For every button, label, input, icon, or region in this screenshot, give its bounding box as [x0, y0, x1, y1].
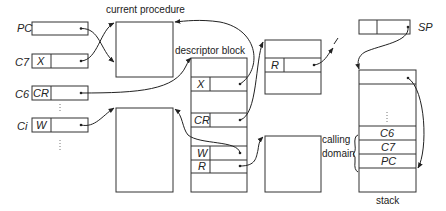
- stack-entry-c6: C6: [380, 127, 395, 139]
- register-ci: Ci W: [17, 118, 88, 132]
- calling-domain-label-1: calling: [322, 134, 350, 145]
- arrow-ci-to-segment: [81, 108, 114, 125]
- register-sp: SP: [359, 20, 433, 34]
- arrow-c6-to-descriptor: [81, 58, 191, 93]
- register-label-c7: C7: [15, 56, 30, 68]
- descriptor-block: X CR W R: [191, 58, 247, 192]
- descriptor-block-label: descriptor block: [175, 45, 246, 56]
- calling-domain-label-2: domain: [322, 148, 355, 159]
- stack-entry-pc: PC: [381, 155, 396, 167]
- descriptor-entry-r: R: [198, 160, 206, 172]
- register-field-c6: CR: [33, 87, 49, 99]
- register-label-ci: Ci: [17, 120, 28, 132]
- arrow-r-to-calling-domain: [240, 137, 263, 166]
- register-label-pc: PC: [17, 22, 32, 34]
- data-segment-box: [116, 108, 173, 192]
- linked-block-entry-r: R: [271, 59, 279, 71]
- current-procedure-box: [116, 22, 173, 77]
- current-procedure-label: current procedure: [106, 4, 185, 15]
- descriptor-entry-x: X: [196, 78, 205, 90]
- register-label-c6: C6: [15, 88, 30, 100]
- calling-domain-brace: [353, 135, 358, 172]
- stack-label: stack: [376, 195, 400, 206]
- stack-entry-c7: C7: [381, 141, 396, 153]
- register-c7: C7 X: [15, 54, 88, 68]
- arrow-pc-to-procedure: [81, 28, 114, 62]
- register-label-sp: SP: [418, 21, 433, 33]
- register-field-c7: X: [36, 55, 45, 67]
- capability-diagram: PC C7 X C6 CR Ci W current procedure des…: [0, 0, 446, 211]
- register-c6: C6 CR: [15, 86, 88, 100]
- arrow-sp-to-stack: [358, 27, 408, 69]
- register-pc: PC: [17, 22, 88, 35]
- linked-descriptor-block: R: [265, 40, 321, 94]
- stack: C6 C7 PC: [359, 70, 416, 192]
- register-field-ci: W: [36, 119, 48, 131]
- arrow-linked-r-continuation: [334, 38, 338, 44]
- descriptor-entry-cr: CR: [194, 114, 210, 126]
- calling-domain-box: [265, 136, 321, 192]
- descriptor-entry-w: W: [197, 147, 209, 159]
